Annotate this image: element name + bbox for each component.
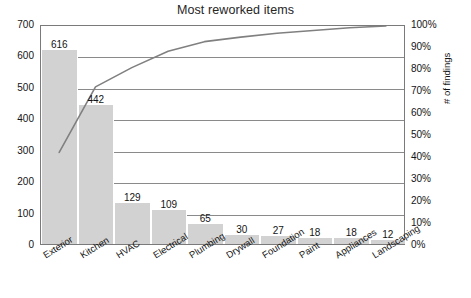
bar-value-labels: 616442129109653027181812	[41, 26, 404, 244]
right-axis-tick-label: 60%	[411, 107, 445, 118]
left-axis-tick-label: 100	[0, 208, 34, 219]
bar-value-label: 65	[187, 213, 224, 224]
left-axis-tick-label: 300	[0, 145, 34, 156]
plot-area: 616442129109653027181812	[40, 25, 405, 245]
bar-value-label: 30	[224, 224, 261, 235]
left-axis-tick-label: 600	[0, 50, 34, 61]
chart-title: Most reworked items	[0, 3, 471, 17]
right-axis-tick-label: 30%	[411, 173, 445, 184]
left-axis-tick-label: 400	[0, 113, 34, 124]
right-axis-title: # of findings	[441, 53, 452, 104]
right-axis-tick-label: 0%	[411, 239, 445, 250]
right-axis-tick-label: 50%	[411, 129, 445, 140]
bar-value-label: 129	[114, 192, 151, 203]
left-axis-tick-label: 0	[0, 239, 34, 250]
bar-value-label: 442	[78, 94, 115, 105]
right-axis-tick-label: 20%	[411, 195, 445, 206]
right-axis-tick-label: 70%	[411, 85, 445, 96]
left-axis-tick-label: 500	[0, 82, 34, 93]
pareto-chart: Most reworked items 61644212910965302718…	[0, 0, 471, 298]
right-axis-tick-label: 80%	[411, 63, 445, 74]
left-axis-tick-label: 700	[0, 19, 34, 30]
bar-value-label: 616	[41, 39, 78, 50]
right-axis-tick-label: 100%	[411, 19, 445, 30]
right-axis-tick-label: 90%	[411, 41, 445, 52]
bar-value-label: 109	[151, 199, 188, 210]
left-axis-tick-label: 200	[0, 176, 34, 187]
right-axis-tick-label: 40%	[411, 151, 445, 162]
